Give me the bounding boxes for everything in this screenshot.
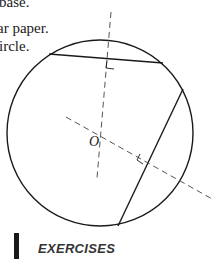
perpendicular-bisector-vertical xyxy=(97,12,111,178)
chord-top xyxy=(49,54,163,63)
center-label: O xyxy=(89,134,99,149)
section-heading: EXERCISES xyxy=(38,241,115,256)
circle xyxy=(7,40,193,226)
perpendicular-bisector-diagonal xyxy=(66,117,214,200)
section-marker-bar xyxy=(14,233,19,259)
right-angle-mark-top xyxy=(106,60,114,69)
chord-right xyxy=(118,89,183,226)
circle-diagram: O xyxy=(0,0,216,259)
